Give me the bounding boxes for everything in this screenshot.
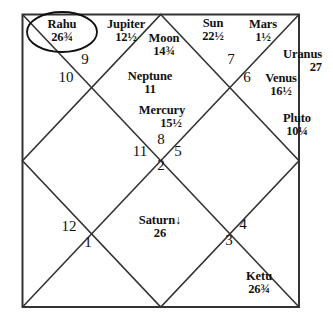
- planet-name-sun: Sun: [203, 16, 224, 30]
- planet-degree-neptune: 11: [128, 83, 172, 96]
- planet-name-saturn: Saturn: [139, 213, 175, 227]
- planet-label-ketu: Ketu 26¾: [246, 270, 272, 296]
- planet-label-mercury: Mercury 15½: [139, 104, 185, 130]
- planet-name-mercury: Mercury: [139, 103, 185, 117]
- house-number-8: 8: [157, 132, 165, 147]
- house-number-1: 1: [84, 235, 92, 250]
- planet-label-pluto: Pluto 10¼: [283, 112, 311, 138]
- planet-name-moon: Moon: [149, 31, 180, 45]
- planet-label-venus: Venus 16½: [265, 72, 297, 98]
- house-number-12: 12: [62, 219, 77, 234]
- planet-name-neptune: Neptune: [128, 69, 172, 83]
- house-number-3: 3: [225, 233, 233, 248]
- planet-label-moon: Moon 14¾: [149, 32, 180, 58]
- planet-name-rahu: Rahu: [48, 17, 77, 31]
- planet-name-ketu: Ketu: [246, 269, 272, 283]
- planet-degree-mars: 1½: [249, 31, 277, 44]
- planet-degree-pluto: 10¼: [283, 125, 311, 138]
- planet-degree-saturn: 26: [139, 227, 181, 240]
- planet-degree-ketu: 26¾: [246, 283, 272, 296]
- planet-label-saturn: Saturn↓ 26: [139, 214, 181, 240]
- house-number-11: 11: [133, 144, 147, 159]
- planet-label-neptune: Neptune 11: [128, 70, 172, 96]
- planet-label-uranus: Uranus 27: [283, 48, 322, 74]
- house-number-5: 5: [174, 144, 182, 159]
- planet-degree-moon: 14¾: [149, 45, 180, 58]
- planet-label-mars: Mars 1½: [249, 18, 277, 44]
- house-number-6: 6: [243, 70, 251, 85]
- house-number-9: 9: [81, 52, 89, 67]
- planet-degree-rahu: 26¾: [48, 31, 77, 44]
- planet-label-rahu: Rahu 26¾: [48, 18, 77, 44]
- saturn-retrograde-icon: ↓: [175, 213, 181, 227]
- planet-degree-sun: 22½: [202, 30, 224, 43]
- house-number-4: 4: [239, 217, 247, 232]
- planet-name-uranus: Uranus: [283, 47, 322, 61]
- planet-degree-venus: 16½: [265, 85, 297, 98]
- planet-degree-mercury: 15½: [157, 117, 185, 130]
- planet-label-jupiter: Jupiter 12½: [107, 18, 145, 44]
- planet-name-venus: Venus: [265, 71, 297, 85]
- planet-name-pluto: Pluto: [283, 111, 311, 125]
- planet-name-jupiter: Jupiter: [107, 17, 145, 31]
- birth-chart-container: Rahu 26¾ Jupiter 12½ Moon 14¾ Sun 22½ Ma…: [0, 0, 333, 324]
- house-number-10: 10: [59, 70, 74, 85]
- planet-label-sun: Sun 22½: [202, 17, 224, 43]
- house-number-2: 2: [157, 158, 165, 173]
- house-number-7: 7: [227, 52, 235, 67]
- planet-degree-jupiter: 12½: [107, 31, 145, 44]
- planet-name-mars: Mars: [249, 17, 277, 31]
